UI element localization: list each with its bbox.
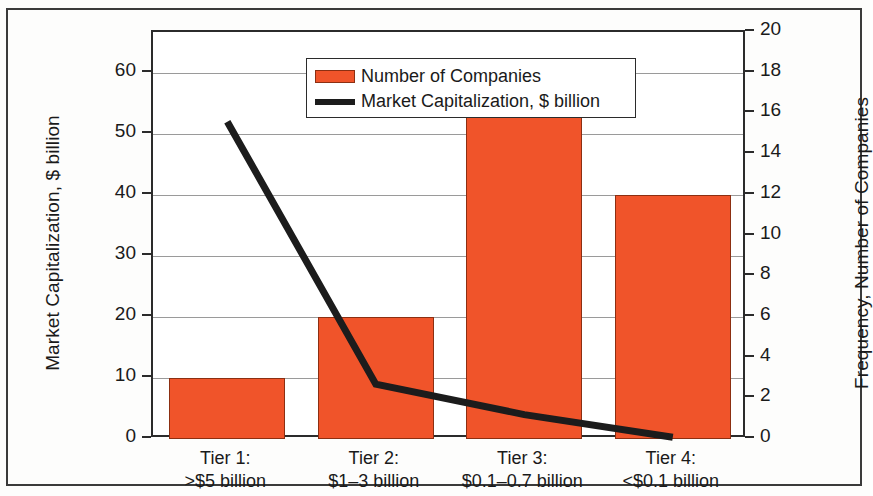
legend-line-swatch-icon: [315, 99, 355, 105]
left-tick-mark: [142, 375, 151, 377]
left-tick-mark: [142, 131, 151, 133]
legend-label-market-capitalization: Market Capitalization, $ billion: [361, 91, 600, 112]
legend-bar-swatch-icon: [315, 70, 355, 83]
left-tick-label: 40: [74, 181, 136, 203]
chart-legend: Number of Companies Market Capitalizatio…: [306, 58, 636, 118]
right-axis-title: Frequency, Number of Companies: [851, 73, 873, 413]
right-tick-label: 6: [760, 303, 822, 325]
left-tick-mark: [142, 192, 151, 194]
category-label-line2: <$0.1 billion: [576, 470, 766, 493]
right-tick-label: 18: [760, 59, 822, 81]
left-tick-label: 20: [74, 303, 136, 325]
plot-area: Number of Companies Market Capitalizatio…: [151, 30, 745, 437]
right-tick-label: 0: [760, 425, 822, 447]
right-tick-label: 20: [760, 18, 822, 40]
left-tick-mark: [142, 253, 151, 255]
left-tick-mark: [142, 436, 151, 438]
market-cap-line: [227, 122, 673, 438]
left-tick-label: 60: [74, 59, 136, 81]
legend-item-number-of-companies: Number of Companies: [315, 64, 627, 89]
left-axis-title: Market Capitalization, $ billion: [42, 93, 64, 393]
figure-outer-frame: Market Capitalization, $ billion Frequen…: [6, 8, 862, 486]
right-tick-mark: [745, 29, 754, 31]
legend-item-market-capitalization: Market Capitalization, $ billion: [315, 89, 627, 114]
left-tick-mark: [142, 70, 151, 72]
right-tick-label: 16: [760, 99, 822, 121]
left-tick-label: 50: [74, 120, 136, 142]
right-tick-label: 12: [760, 181, 822, 203]
category-label-line1: Tier 4:: [576, 447, 766, 470]
right-tick-label: 8: [760, 262, 822, 284]
left-tick-label: 10: [74, 364, 136, 386]
right-tick-label: 14: [760, 140, 822, 162]
right-tick-label: 4: [760, 344, 822, 366]
right-tick-label: 2: [760, 384, 822, 406]
category-label: Tier 4:<$0.1 billion: [576, 447, 766, 493]
left-tick-mark: [142, 314, 151, 316]
left-tick-label: 0: [74, 425, 136, 447]
legend-label-number-of-companies: Number of Companies: [361, 66, 541, 87]
right-tick-label: 10: [760, 222, 822, 244]
left-tick-label: 30: [74, 242, 136, 264]
